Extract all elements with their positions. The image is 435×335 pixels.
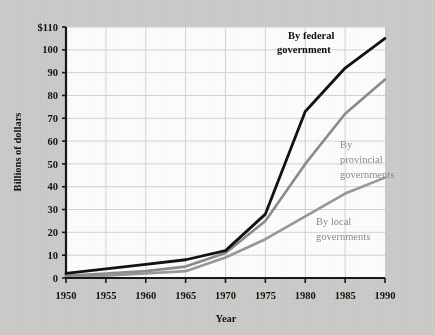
x-axis-title: Year [216, 313, 237, 324]
chart-figure: 0102030405060708090100$110 1950195519601… [0, 0, 435, 335]
x-tick-label: 1970 [215, 290, 236, 301]
x-tick-label: 1955 [95, 290, 116, 301]
line-chart: 0102030405060708090100$110 1950195519601… [0, 0, 435, 335]
y-tick-label: 80 [48, 90, 59, 101]
y-axis-tick-labels: 0102030405060708090100$110 [38, 22, 58, 284]
x-tick-label: 1950 [56, 290, 77, 301]
annotation-federal-line2: government [277, 44, 331, 55]
annotation-provincial-line1: By [340, 139, 353, 150]
y-tick-label: 70 [48, 113, 59, 124]
y-tick-label: 10 [48, 250, 59, 261]
x-tick-label: 1990 [375, 290, 396, 301]
y-tick-label: 50 [48, 159, 59, 170]
y-tick-label: 90 [48, 67, 59, 78]
x-tick-label: 1965 [175, 290, 196, 301]
y-tick-label: 60 [48, 136, 59, 147]
y-tick-label: 20 [48, 227, 59, 238]
y-tick-label: 0 [53, 273, 58, 284]
annotation-local-line1: By local [316, 216, 351, 227]
y-tick-label: $110 [38, 22, 58, 33]
annotation-provincial-line3: governments [340, 169, 394, 180]
y-tick-label: 40 [48, 181, 59, 192]
x-tick-label: 1980 [295, 290, 316, 301]
annotation-provincial-line2: provincial [340, 154, 383, 165]
y-tick-label: 100 [42, 44, 58, 55]
annotation-local-line2: governments [316, 231, 370, 242]
annotation-federal-line1: By federal [288, 30, 334, 41]
x-tick-label: 1960 [135, 290, 156, 301]
y-tick-label: 30 [48, 204, 59, 215]
y-axis-title: Billions of dollars [12, 113, 23, 192]
x-tick-label: 1975 [255, 290, 276, 301]
x-axis-tick-labels: 195019551960196519701975198019851990 [56, 290, 396, 301]
x-tick-label: 1985 [335, 290, 356, 301]
